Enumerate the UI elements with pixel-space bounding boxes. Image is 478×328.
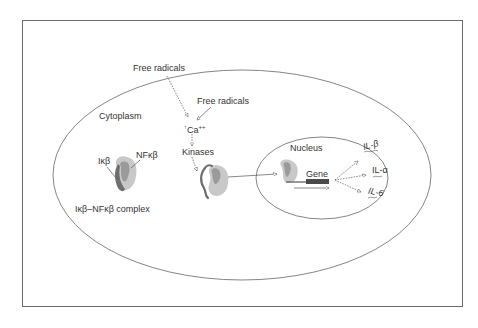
free-radicals-label-1: Free radicals	[133, 64, 185, 73]
free-radicals-label-2: Free radicals	[197, 97, 249, 106]
activated-nfkb-icon	[201, 165, 228, 198]
cytoplasm-label: Cytoplasm	[99, 112, 142, 121]
nfkb-label: NFκβ	[136, 151, 158, 160]
calcium-label: ↑Ca++	[184, 124, 206, 135]
il-alpha-label: IL-α	[372, 166, 388, 175]
nucleus-label: Nucleus	[290, 144, 323, 153]
ikb-nfkb-complex-icon	[107, 156, 140, 191]
translocation-arrow	[228, 174, 277, 177]
nuclear-nfkb-icon	[280, 160, 306, 183]
ikb-label: Iκβ	[98, 157, 110, 166]
calcium-text: Ca	[187, 125, 199, 135]
gene-il-6-arrow	[335, 180, 361, 192]
gene-bar	[306, 179, 329, 184]
pathway-diagram	[0, 0, 478, 328]
free-radicals-arrow-2	[197, 107, 211, 120]
calcium-charge: ++	[199, 124, 206, 130]
free-radicals-arrow-1	[167, 76, 188, 117]
il-alpha-underline	[373, 176, 382, 177]
complex-label: Iκβ–NFκβ complex	[75, 205, 150, 214]
kinases-label: Kinases	[182, 148, 214, 157]
gene-label: Gene	[306, 170, 328, 179]
kinases-protein-arrow	[192, 157, 197, 171]
